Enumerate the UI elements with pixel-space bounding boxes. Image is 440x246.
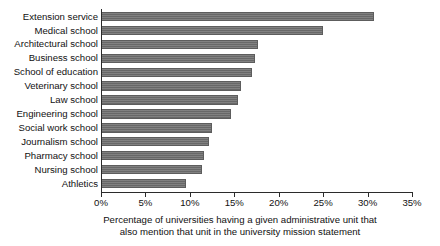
bar-row: Architectural school	[0, 37, 440, 51]
x-tick-mark	[145, 193, 146, 197]
category-label: Business school	[29, 51, 98, 65]
bar	[101, 165, 202, 174]
bar-row: Extension service	[0, 10, 440, 24]
bar	[101, 40, 258, 49]
category-label: Pharmacy school	[24, 149, 98, 163]
x-tick-mark	[412, 193, 413, 197]
bar-row: Law school	[0, 93, 440, 107]
x-tick-label: 10%	[180, 197, 199, 208]
category-label: Architectural school	[14, 37, 98, 51]
category-label: Law school	[50, 93, 98, 107]
plot-area: Extension serviceMedical schoolArchitect…	[0, 0, 440, 200]
category-label: School of education	[14, 65, 98, 79]
x-tick-mark	[279, 193, 280, 197]
category-label: Nursing school	[35, 163, 98, 177]
category-label: Medical school	[35, 24, 98, 38]
bar	[101, 123, 212, 132]
bar	[101, 26, 323, 35]
category-label: Athletics	[62, 177, 98, 191]
bar-row: Athletics	[0, 177, 440, 191]
bar-row: Journalism school	[0, 135, 440, 149]
bar-row: Nursing school	[0, 163, 440, 177]
x-tick-label: 30%	[358, 197, 377, 208]
bar-row: Medical school	[0, 24, 440, 38]
bar	[101, 81, 241, 90]
bar	[101, 12, 374, 21]
y-axis-line	[101, 9, 102, 192]
bar-chart-figure: Extension serviceMedical schoolArchitect…	[0, 0, 440, 246]
bar	[101, 179, 186, 188]
bar	[101, 95, 238, 104]
x-tick-label: 25%	[314, 197, 333, 208]
axis-caption: Percentage of universities having a give…	[70, 214, 410, 239]
bar-row: Social work school	[0, 121, 440, 135]
x-tick-mark	[323, 193, 324, 197]
bar-row: Pharmacy school	[0, 149, 440, 163]
bar	[101, 68, 252, 77]
category-label: Journalism school	[21, 135, 98, 149]
bar	[101, 109, 231, 118]
bar	[101, 151, 204, 160]
x-axis-line	[101, 192, 413, 193]
x-tick-label: 15%	[225, 197, 244, 208]
bar-row: School of education	[0, 65, 440, 79]
caption-line-2: also mention that unit in the university…	[70, 226, 410, 238]
category-label: Extension service	[23, 10, 98, 24]
x-tick-label: 5%	[138, 197, 152, 208]
x-tick-mark	[190, 193, 191, 197]
x-tick-label: 0%	[94, 197, 108, 208]
category-label: Engineering school	[16, 107, 98, 121]
x-tick-mark	[368, 193, 369, 197]
category-label: Veterinary school	[24, 79, 98, 93]
x-tick-label: 20%	[269, 197, 288, 208]
caption-line-1: Percentage of universities having a give…	[70, 214, 410, 226]
category-label: Social work school	[19, 121, 98, 135]
bar-row: Engineering school	[0, 107, 440, 121]
bar-row: Veterinary school	[0, 79, 440, 93]
bar	[101, 137, 209, 146]
x-tick-mark	[234, 193, 235, 197]
x-tick-label: 35%	[402, 197, 421, 208]
bar-row: Business school	[0, 51, 440, 65]
bar	[101, 54, 255, 63]
x-tick-mark	[101, 193, 102, 197]
